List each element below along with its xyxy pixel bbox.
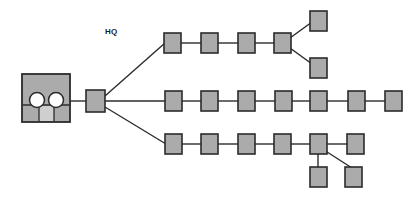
node-b3[interactable] bbox=[238, 134, 255, 154]
network-topology-diagram: HQ bbox=[0, 0, 418, 199]
hub-node[interactable] bbox=[86, 90, 105, 112]
node-m4[interactable] bbox=[275, 91, 292, 111]
node-t3[interactable] bbox=[238, 33, 255, 53]
node-b4[interactable] bbox=[274, 134, 291, 154]
building-dome-right bbox=[49, 93, 64, 108]
node-b8[interactable] bbox=[345, 167, 362, 187]
node-m3[interactable] bbox=[238, 91, 255, 111]
link-hub-to-bottom bbox=[105, 107, 166, 144]
link-t4-t5 bbox=[290, 22, 312, 38]
node-t6[interactable] bbox=[310, 58, 327, 78]
node-b6[interactable] bbox=[347, 134, 364, 154]
node-t2[interactable] bbox=[201, 33, 218, 53]
node-t5[interactable] bbox=[310, 11, 327, 31]
node-m7[interactable] bbox=[385, 91, 402, 111]
link-t4-t6 bbox=[290, 48, 312, 64]
node-t1[interactable] bbox=[164, 33, 181, 53]
node-b5[interactable] bbox=[310, 134, 327, 154]
node-hub[interactable] bbox=[86, 90, 105, 112]
top-branch-nodes bbox=[164, 11, 327, 78]
node-b2[interactable] bbox=[201, 134, 218, 154]
headquarters-building bbox=[22, 74, 70, 122]
building-dome-left bbox=[30, 93, 45, 108]
building-center-panel bbox=[39, 106, 54, 121]
hq-label: HQ bbox=[105, 27, 118, 36]
node-m5[interactable] bbox=[310, 91, 327, 111]
link-hub-to-top bbox=[105, 43, 165, 96]
node-m1[interactable] bbox=[165, 91, 182, 111]
bottom-branch-nodes bbox=[165, 134, 364, 187]
links-layer bbox=[70, 22, 385, 168]
node-t4[interactable] bbox=[274, 33, 291, 53]
node-m2[interactable] bbox=[201, 91, 218, 111]
network-diagram-canvas: HQ bbox=[0, 0, 418, 199]
node-b7[interactable] bbox=[310, 167, 327, 187]
node-b1[interactable] bbox=[165, 134, 182, 154]
node-m6[interactable] bbox=[348, 91, 365, 111]
